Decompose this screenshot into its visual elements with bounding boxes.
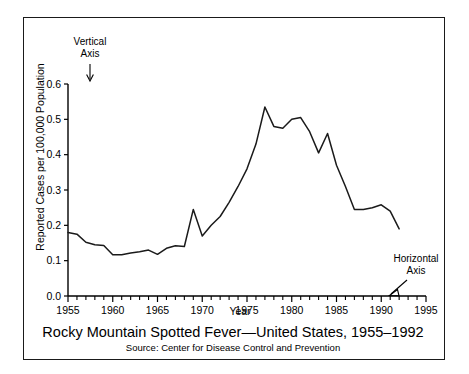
figure-source: Source: Center for Disease Control and P… [126,342,340,353]
y-tick-label: 0.2 [46,219,61,231]
y-tick-label: 0.3 [46,184,61,196]
y-tick-label: 0.5 [46,113,61,125]
figure-title: Rocky Mountain Spotted Fever—United Stat… [42,324,423,340]
x-tick-label: 1965 [146,304,170,316]
figure-frame: Vertical Axis Horizontal Axis Reported C… [23,17,445,360]
chart-canvas: Vertical Axis Horizontal Axis Reported C… [24,18,443,358]
vertical-axis-annotation-line1: Vertical [74,36,107,47]
y-tick-label: 0.6 [46,78,61,90]
x-tick-label: 1960 [101,304,125,316]
x-tick-label: 1975 [235,304,259,316]
x-tick-label: 1990 [370,304,394,316]
plot-layer: 0.00.10.20.30.40.50.61955196019651970197… [46,78,437,316]
y-axis-title: Reported Cases per 100,000 Population [34,63,46,251]
vertical-axis-annotation-line2: Axis [81,48,100,59]
x-tick-label: 1995 [414,304,438,316]
x-tick-label: 1980 [280,304,304,316]
horizontal-axis-annotation-line2: Axis [407,265,426,276]
x-tick-label: 1955 [56,304,80,316]
y-tick-label: 0.1 [46,254,61,266]
annotation-vertical-axis: Vertical Axis [74,36,107,81]
x-tick-label: 1970 [191,304,215,316]
horizontal-axis-annotation-line1: Horizontal [393,253,438,264]
annotation-horizontal-axis: Horizontal Axis [390,253,439,296]
y-tick-label: 0.0 [46,290,61,302]
data-series-line [68,107,399,255]
x-tick-label: 1985 [325,304,349,316]
y-tick-label: 0.4 [46,148,61,160]
